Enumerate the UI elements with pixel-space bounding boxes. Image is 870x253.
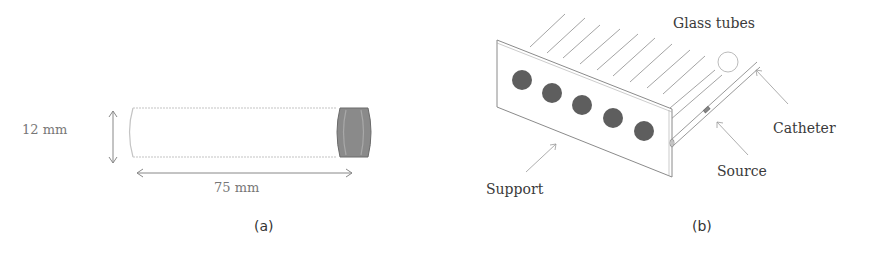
catheter-label: Catheter (773, 120, 836, 136)
height-dimension-arrow (109, 111, 117, 163)
source-label: Source (717, 163, 767, 179)
diagram-canvas (0, 0, 870, 253)
radiation-source (703, 107, 709, 113)
catheter (670, 62, 760, 147)
height-label: 12 mm (22, 122, 67, 137)
caption-a: (a) (254, 218, 274, 234)
glass-tube (130, 108, 372, 157)
tube-cap (337, 108, 371, 157)
length-dimension-arrow (137, 169, 352, 177)
glass-tubes-label: Glass tubes (673, 15, 755, 31)
support-label: Support (486, 181, 543, 197)
length-label: 75 mm (214, 180, 259, 195)
caption-b: (b) (692, 218, 712, 234)
glass-tube-end (718, 52, 738, 72)
